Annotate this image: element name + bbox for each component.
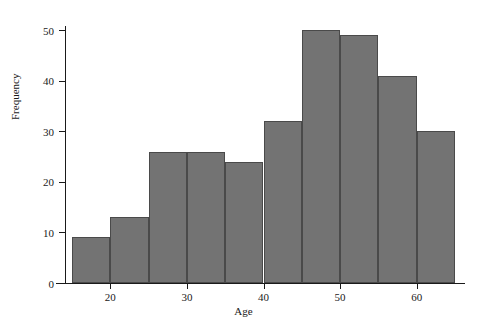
- x-axis-tick-label: 20: [105, 291, 116, 303]
- y-axis-tick-mark: [59, 30, 65, 31]
- x-axis-tick-mark: [417, 283, 418, 289]
- histogram-bar: [302, 30, 340, 283]
- y-axis-tick-mark: [59, 283, 65, 284]
- y-axis-tick-label: 30: [43, 126, 54, 138]
- y-axis-tick-mark: [59, 232, 65, 233]
- x-axis-tick-label: 30: [181, 291, 192, 303]
- y-axis-tick: 50: [59, 30, 65, 31]
- histogram-bar: [264, 121, 302, 283]
- y-axis-tick: 40: [59, 81, 65, 82]
- y-axis-tick-mark: [59, 131, 65, 132]
- x-axis-tick-mark: [187, 283, 188, 289]
- histogram-bar: [149, 152, 187, 284]
- y-axis-tick: 20: [59, 182, 65, 183]
- plot-area: [72, 20, 455, 283]
- y-axis-tick-label: 50: [43, 25, 54, 37]
- histogram-bar: [225, 162, 263, 283]
- x-axis-tick-label: 40: [258, 291, 269, 303]
- histogram-bar: [187, 152, 225, 284]
- y-axis-tick: 0: [59, 283, 65, 284]
- y-axis-tick-label: 0: [49, 278, 55, 290]
- histogram-bar: [72, 237, 110, 283]
- y-axis-tick-label: 10: [43, 227, 54, 239]
- y-axis-tick-label: 20: [43, 176, 54, 188]
- x-axis-tick-mark: [340, 283, 341, 289]
- x-axis-line: [56, 283, 465, 284]
- histogram-bar: [378, 76, 416, 283]
- y-axis-tick: 30: [59, 131, 65, 132]
- y-axis-line: [65, 26, 66, 284]
- y-axis-tick-mark: [59, 81, 65, 82]
- y-axis-title: Frequency: [9, 74, 21, 120]
- histogram-bar: [340, 35, 378, 283]
- x-axis-tick-mark: [264, 283, 265, 289]
- x-axis-title: Age: [0, 305, 487, 317]
- histogram-bar: [417, 131, 455, 283]
- x-axis-tick-label: 60: [411, 291, 422, 303]
- x-axis-tick-label: 50: [335, 291, 346, 303]
- x-axis-tick-mark: [110, 283, 111, 289]
- y-axis-tick-mark: [59, 182, 65, 183]
- histogram-figure: 01020304050 2030405060 Age Frequency: [0, 0, 487, 330]
- histogram-bar: [110, 217, 148, 283]
- y-axis-tick: 10: [59, 232, 65, 233]
- y-axis-tick-label: 40: [43, 75, 54, 87]
